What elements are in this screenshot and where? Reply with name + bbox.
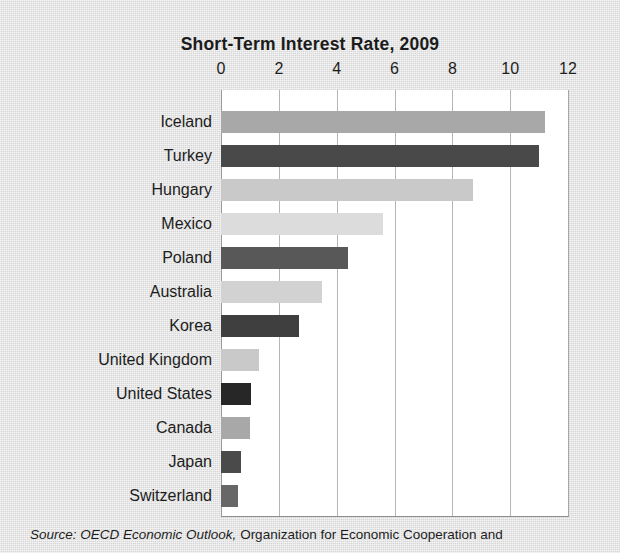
- source-note: Source: OECD Economic Outlook, Organizat…: [30, 527, 503, 542]
- x-tick-2: 2: [274, 60, 283, 78]
- x-tick-4: 4: [332, 60, 341, 78]
- bar-turkey: [221, 145, 539, 167]
- x-tick-12: 12: [559, 60, 577, 78]
- x-tick-0: 0: [217, 60, 226, 78]
- bar-poland: [221, 247, 348, 269]
- category-label-united-states: United States: [116, 383, 212, 405]
- category-label-canada: Canada: [156, 417, 212, 439]
- bar-switzerland: [221, 485, 238, 507]
- bar-japan: [221, 451, 241, 473]
- bar-row: United Kingdom: [221, 343, 568, 377]
- bar-iceland: [221, 111, 545, 133]
- bar-australia: [221, 281, 322, 303]
- source-organization: Organization for Economic Cooperation an…: [240, 527, 503, 542]
- x-tick-6: 6: [390, 60, 399, 78]
- category-label-australia: Australia: [150, 281, 212, 303]
- bar-row: Mexico: [221, 207, 568, 241]
- category-label-united-kingdom: United Kingdom: [98, 349, 212, 371]
- category-label-poland: Poland: [162, 247, 212, 269]
- bar-row: Switzerland: [221, 479, 568, 513]
- bar-row: Canada: [221, 411, 568, 445]
- bar-row: Korea: [221, 309, 568, 343]
- plot-area: IcelandTurkeyHungaryMexicoPolandAustrali…: [221, 90, 569, 517]
- category-label-turkey: Turkey: [164, 145, 212, 167]
- figure-page: Short-Term Interest Rate, 2009 024681012…: [0, 0, 620, 553]
- bar-korea: [221, 315, 299, 337]
- x-tick-8: 8: [448, 60, 457, 78]
- source-publication: OECD Economic Outlook,: [80, 527, 236, 542]
- category-label-hungary: Hungary: [152, 179, 212, 201]
- bar-row: Iceland: [221, 105, 568, 139]
- category-label-japan: Japan: [168, 451, 212, 473]
- bar-mexico: [221, 213, 383, 235]
- category-label-mexico: Mexico: [161, 213, 212, 235]
- x-tick-10: 10: [501, 60, 519, 78]
- bar-row: United States: [221, 377, 568, 411]
- bar-row: Australia: [221, 275, 568, 309]
- source-label: Source:: [30, 527, 77, 542]
- bar-row: Turkey: [221, 139, 568, 173]
- bar-united-kingdom: [221, 349, 259, 371]
- bar-united-states: [221, 383, 251, 405]
- bar-hungary: [221, 179, 473, 201]
- category-label-switzerland: Switzerland: [129, 485, 212, 507]
- category-label-iceland: Iceland: [160, 111, 212, 133]
- bar-row: Hungary: [221, 173, 568, 207]
- bar-canada: [221, 417, 250, 439]
- category-label-korea: Korea: [169, 315, 212, 337]
- bar-row: Poland: [221, 241, 568, 275]
- bar-row: Japan: [221, 445, 568, 479]
- chart-title: Short-Term Interest Rate, 2009: [0, 34, 620, 55]
